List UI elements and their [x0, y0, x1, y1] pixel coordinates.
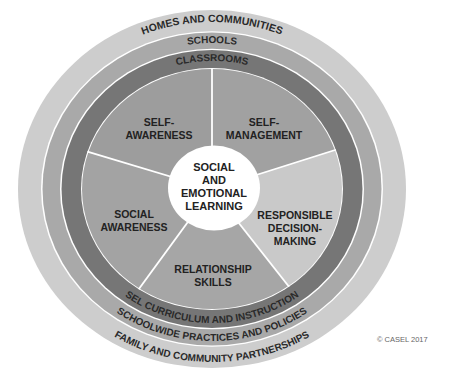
- svg-text:EMOTIONAL: EMOTIONAL: [181, 187, 247, 199]
- svg-text:SKILLS: SKILLS: [194, 276, 231, 288]
- svg-text:LEARNING: LEARNING: [185, 200, 242, 212]
- svg-text:SELF-: SELF-: [144, 116, 175, 128]
- label-schools: SCHOOLS: [186, 34, 238, 47]
- svg-text:SOCIAL: SOCIAL: [193, 161, 235, 173]
- sel-wheel-diagram: HOMES AND COMMUNITIES SCHOOLS CLASSROOMS…: [0, 0, 449, 382]
- svg-text:SOCIAL: SOCIAL: [114, 208, 154, 220]
- svg-text:MANAGEMENT: MANAGEMENT: [226, 129, 303, 141]
- svg-text:RELATIONSHIP: RELATIONSHIP: [174, 263, 251, 275]
- copyright-notice: © CASEL 2017: [377, 335, 428, 344]
- svg-text:AWARENESS: AWARENESS: [125, 129, 192, 141]
- svg-text:AND: AND: [202, 174, 226, 186]
- svg-text:DECISION-: DECISION-: [268, 222, 323, 234]
- svg-text:MAKING: MAKING: [274, 235, 317, 247]
- svg-text:AWARENESS: AWARENESS: [100, 221, 167, 233]
- svg-text:RESPONSIBLE: RESPONSIBLE: [257, 209, 332, 221]
- svg-text:SELF-: SELF-: [249, 116, 280, 128]
